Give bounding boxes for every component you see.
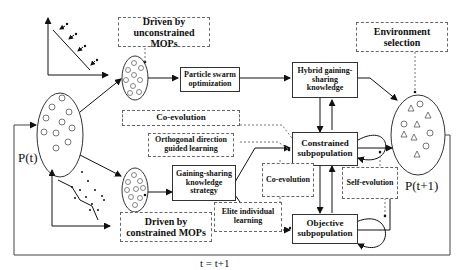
constrained-subpopulation-box: Constrained subpopulation	[292, 132, 358, 166]
driven-unconstrained-box: Driven by unconstrained MOPs	[118, 17, 210, 47]
population-t1-ellipse	[391, 95, 445, 175]
co-evolution-top-box: Co-evolution	[122, 110, 240, 126]
population-t1-label: P(t+1)	[405, 178, 438, 194]
gsk-strategy-box: Gaining-sharing knowledge strategy	[172, 165, 236, 201]
self-evolution-box: Self-evolution	[342, 167, 398, 199]
environment-selection-box: Environment selection	[356, 22, 448, 52]
objective-subpopulation-box: Objective subpopulation	[292, 214, 358, 244]
elite-learning-box: Elite individual learning	[214, 202, 282, 232]
hybrid-gsk-box: Hybrid gaining-sharing knowledge	[292, 62, 358, 98]
population-t-label: P(t)	[18, 150, 38, 166]
particle-swarm-box: Particle swarm optimization	[180, 67, 240, 92]
co-evolution-mid-box: Co-evolution	[262, 163, 314, 197]
unconstrained-pareto-plot	[48, 18, 108, 75]
driven-constrained-box: Driven by constrained MOPs	[120, 212, 212, 242]
loop-label: t = t+1	[200, 257, 230, 269]
orthogonal-learning-box: Orthogonal direction guided learning	[148, 133, 234, 157]
constrained-pareto-plot	[52, 170, 110, 226]
